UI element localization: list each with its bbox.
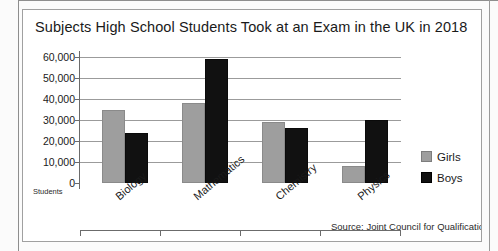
- legend-item-boys: Boys: [421, 171, 463, 184]
- y-tick-label-20000: 20,000: [43, 136, 75, 147]
- x-tick-0: [80, 230, 81, 236]
- y-tick-60000: [75, 57, 80, 58]
- gridline-30000: [80, 120, 401, 121]
- legend-item-girls: Girls: [421, 150, 463, 163]
- boys-swatch-icon: [421, 172, 432, 183]
- x-tick-2: [240, 230, 241, 236]
- y-tick-label-50000: 50,000: [43, 73, 75, 84]
- legend-label-girls: Girls: [437, 151, 461, 163]
- chart-title: Subjects High School Students Took at an…: [35, 19, 467, 35]
- y-tick-0: [75, 183, 80, 184]
- x-tick-3: [320, 230, 321, 236]
- y-tick-label-10000: 10,000: [43, 157, 75, 168]
- page-border-top: [18, 0, 498, 1]
- y-tick-20000: [75, 141, 80, 142]
- source-note: Source: Joint Council for Qualification: [331, 221, 482, 232]
- chart-container: Subjects High School Students Took at an…: [22, 9, 482, 242]
- girls-swatch-icon: [421, 151, 432, 162]
- page-border-left: [18, 0, 19, 251]
- bar-mathematics-girls: [182, 103, 205, 183]
- gridline-40000: [80, 99, 401, 100]
- y-tick-50000: [75, 78, 80, 79]
- bar-chemistry-girls: [262, 122, 285, 183]
- legend-label-boys: Boys: [437, 172, 463, 184]
- y-axis-labels: 60,000 50,000 40,000 30,000 20,000 10,00…: [45, 10, 75, 210]
- x-tick-1: [160, 230, 161, 236]
- y-tick-10000: [75, 162, 80, 163]
- chart-page: Subjects High School Students Took at an…: [0, 0, 498, 251]
- y-tick-label-30000: 30,000: [43, 115, 75, 126]
- bar-biology-girls: [102, 110, 125, 183]
- gridline-60000: [80, 57, 401, 58]
- y-tick-label-60000: 60,000: [43, 52, 75, 63]
- y-axis-title: Students: [33, 187, 63, 196]
- bar-physics-girls: [342, 166, 365, 183]
- chart-legend: Girls Boys: [421, 150, 463, 192]
- y-tick-label-40000: 40,000: [43, 94, 75, 105]
- y-tick-40000: [75, 99, 80, 100]
- y-tick-30000: [75, 120, 80, 121]
- gridline-50000: [80, 78, 401, 79]
- page-border-right: [489, 0, 490, 251]
